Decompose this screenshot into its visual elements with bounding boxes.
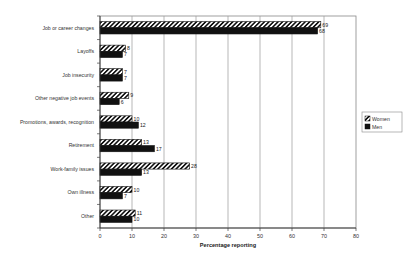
value-label-women: 7	[124, 69, 127, 75]
legend-label-men: Men	[372, 124, 382, 130]
x-tick-label: 50	[257, 233, 263, 239]
bar-women	[100, 45, 126, 51]
bar-women	[100, 69, 122, 75]
category-label: Retirement	[69, 142, 95, 148]
bar-men	[100, 216, 132, 222]
category-label: Other negative job events	[35, 95, 95, 101]
value-label-women: 10	[134, 116, 140, 122]
bar-women	[100, 22, 321, 28]
value-label-men: 10	[134, 216, 140, 222]
category-label: Promotions, awards, recognition	[20, 119, 94, 125]
bar-men	[100, 98, 119, 104]
x-tick-label: 40	[225, 233, 231, 239]
legend-swatch-women	[365, 116, 370, 121]
bar-men	[100, 51, 122, 57]
x-tick-label: 60	[289, 233, 295, 239]
value-label-women: 9	[130, 92, 133, 98]
bar-women	[100, 139, 142, 145]
value-label-women: 69	[322, 22, 328, 28]
value-label-women: 8	[127, 45, 130, 51]
x-tick-label: 70	[321, 233, 327, 239]
bar-men	[100, 146, 154, 152]
legend: WomenMen	[362, 112, 402, 132]
category-label: Job insecurity	[62, 72, 94, 78]
x-tick-label: 80	[353, 233, 359, 239]
value-label-men: 12	[140, 122, 146, 128]
bar-men	[100, 28, 318, 34]
value-label-men: 7	[124, 51, 127, 57]
value-label-women: 13	[143, 139, 149, 145]
bar-women	[100, 116, 132, 122]
value-label-men: 7	[124, 193, 127, 199]
category-label: Other	[81, 213, 94, 219]
x-axis-title: Percentage reporting	[200, 242, 257, 248]
bar-women	[100, 186, 132, 192]
category-label: Job or career changes	[42, 25, 94, 31]
legend-swatch-men	[365, 124, 370, 129]
category-label: Layoffs	[77, 48, 94, 54]
value-label-men: 6	[121, 99, 124, 105]
category-label: Own illness	[67, 189, 94, 195]
value-label-men: 7	[124, 75, 127, 81]
value-label-men: 17	[156, 146, 162, 152]
bar-men	[100, 169, 142, 175]
bar-women	[100, 92, 129, 98]
value-label-men: 68	[319, 28, 325, 34]
value-label-men: 13	[143, 169, 149, 175]
x-tick-label: 10	[129, 233, 135, 239]
x-tick-label: 0	[99, 233, 102, 239]
bar-chart: 01020304050607080 Job or career changes6…	[0, 0, 408, 262]
bar-men	[100, 122, 138, 128]
bar-women	[100, 163, 190, 169]
bar-women	[100, 210, 135, 216]
bar-men	[100, 193, 122, 199]
value-label-women: 28	[191, 163, 197, 169]
category-label: Work-family issues	[51, 166, 95, 172]
bar-men	[100, 75, 122, 81]
x-tick-label: 20	[161, 233, 167, 239]
x-tick-label: 30	[193, 233, 199, 239]
legend-label-women: Women	[372, 116, 390, 122]
value-label-women: 11	[137, 210, 142, 216]
value-label-women: 10	[134, 187, 140, 193]
